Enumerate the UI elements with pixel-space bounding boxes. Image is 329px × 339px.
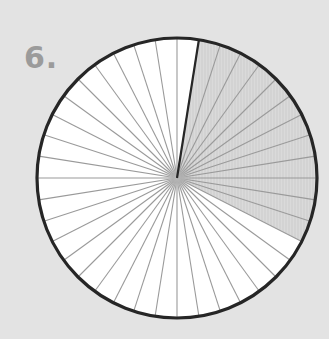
fraction-circle [0, 0, 329, 339]
